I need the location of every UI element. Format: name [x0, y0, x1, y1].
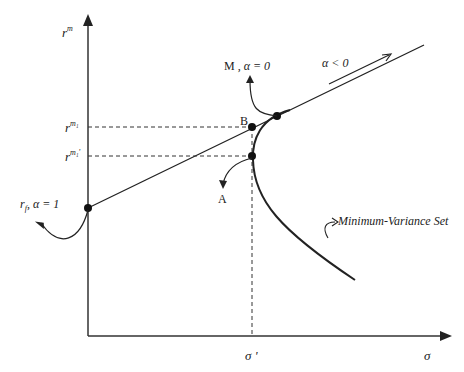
point-b-label: B [240, 115, 248, 127]
a-callout-curve [223, 158, 252, 184]
y-axis-arrow-icon [83, 14, 93, 26]
point-b [248, 123, 256, 131]
m-callout-curve [250, 80, 277, 116]
rf-label: rf, α = 1 [20, 198, 59, 213]
a-callout-arrow-icon [219, 180, 227, 189]
min-variance-set-label: Minimum-Variance Set [338, 215, 448, 227]
m-label: M , α = 0 [224, 60, 270, 72]
x-axis-arrow-icon [440, 331, 452, 341]
diagram-canvas: rm rm₁ rm₁' rf, α = 1 M , α = 0 α < 0 B … [0, 0, 464, 372]
alpha-negative-label: α < 0 [322, 57, 348, 69]
y-tick-r1-label: rm₁ [65, 121, 79, 134]
y-axis-label: rm [62, 26, 73, 39]
x-axis-label: σ [424, 349, 430, 362]
x-tick-sigma-prime-label: σ ' [245, 349, 257, 362]
rf-callout-curve [41, 210, 88, 239]
diagram-svg [0, 0, 464, 372]
minimum-variance-curve [253, 110, 355, 280]
m-callout-arrow-icon [246, 75, 254, 83]
y-tick-r2-label: rm₁' [65, 150, 80, 163]
point-a-label: A [218, 193, 227, 205]
rf-callout-arrow-icon [35, 219, 46, 231]
